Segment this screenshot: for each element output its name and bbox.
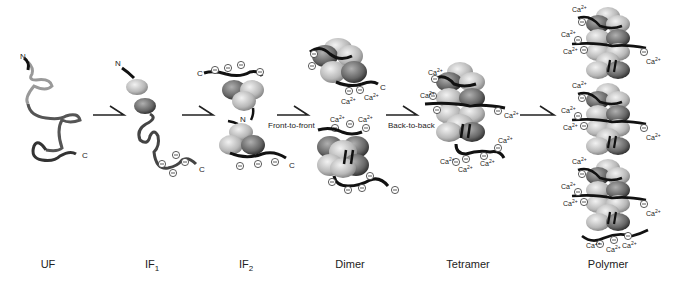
svg-text:C: C: [199, 165, 205, 174]
svg-text:Ca2+: Ca2+: [646, 56, 661, 65]
uf-unfolded-chain: N C: [20, 52, 88, 161]
dimer-complex: C Ca2+ Ca2+ Ca2+ Ca2+: [308, 38, 398, 194]
tetramer-complex: Ca2+ Ca2+ Ca2+ Ca2+ Ca2+ Ca2+ Ca2+: [420, 62, 519, 173]
stage-label-uf: UF: [8, 258, 88, 270]
svg-text:Ca2+: Ca2+: [561, 29, 576, 38]
svg-text:Ca2+: Ca2+: [330, 114, 345, 123]
folding-pathway-diagram: N C N C N: [0, 0, 684, 284]
arrow-tetramer-to-polymer: [520, 106, 554, 115]
svg-text:C: C: [380, 83, 386, 92]
stage-label-polymer: Polymer: [568, 258, 648, 270]
if1-intermediate: N C: [115, 59, 205, 177]
arrow-dimer-to-tetramer: [386, 106, 417, 115]
svg-text:C: C: [289, 161, 295, 170]
n-terminus-label: N: [20, 52, 26, 61]
svg-text:Ca2+: Ca2+: [563, 46, 578, 55]
transition-label-front-to-front: Front-to-front: [268, 121, 315, 130]
svg-text:Ca2+: Ca2+: [572, 4, 587, 13]
stage-label-if1: IF1: [112, 258, 192, 273]
arrow-if2-to-dimer: [277, 106, 308, 115]
svg-text:Ca2+: Ca2+: [606, 244, 621, 253]
svg-text:Ca2+: Ca2+: [498, 135, 513, 144]
svg-text:Ca2+: Ca2+: [364, 92, 379, 101]
svg-text:N: N: [240, 115, 246, 124]
arrow-uf-to-if1: [93, 106, 124, 115]
svg-text:Ca2+: Ca2+: [622, 240, 637, 249]
stage-label-dimer: Dimer: [310, 258, 390, 270]
svg-text:N: N: [115, 59, 121, 68]
svg-text:Ca2+: Ca2+: [358, 114, 373, 123]
svg-text:Ca2+: Ca2+: [504, 110, 519, 119]
transition-label-back-to-back: Back-to-back: [388, 121, 435, 130]
svg-text:Ca2+: Ca2+: [458, 164, 473, 173]
c-terminus-label: C: [82, 151, 88, 160]
arrow-if1-to-if2: [182, 106, 213, 115]
svg-text:Ca2+: Ca2+: [341, 96, 356, 105]
polymer-complex: Ca2+ Ca2+ Ca2+ Ca2+ Ca2+ Ca2+ Ca2+: [561, 4, 661, 253]
stage-label-if2: IF2: [206, 258, 286, 273]
svg-text:C: C: [197, 69, 203, 78]
svg-text:Ca2+: Ca2+: [480, 158, 495, 167]
stage-label-tetramer: Tetramer: [428, 258, 508, 270]
